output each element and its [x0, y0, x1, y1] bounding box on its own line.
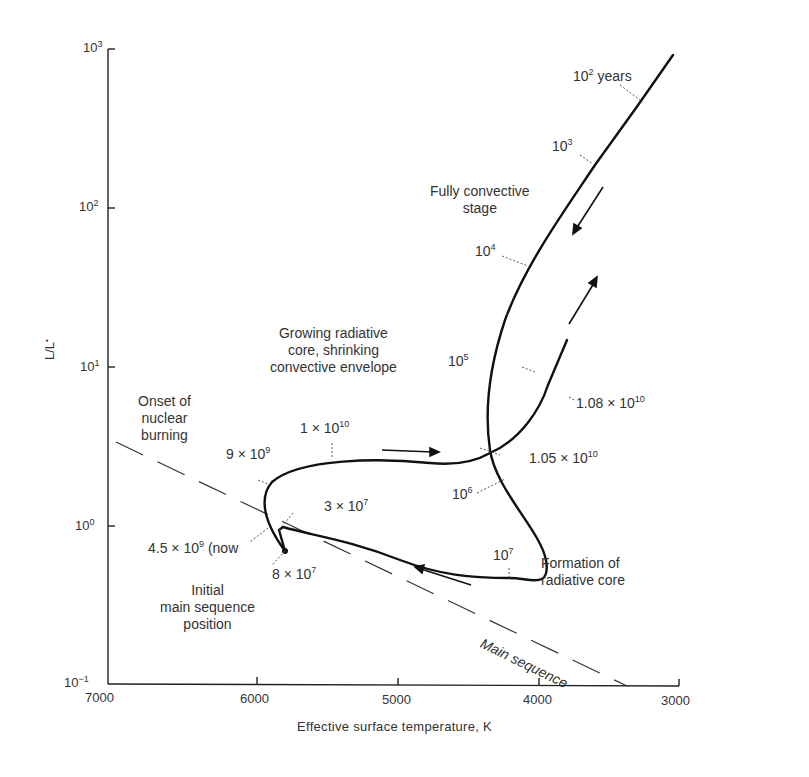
age-1.08e10: 1.08 × 1010	[576, 395, 645, 412]
age-1e7: 107	[493, 547, 514, 564]
age-1e3: 103	[552, 138, 573, 155]
x-axis-title: Effective surface temperature, K	[297, 718, 492, 735]
x-tick-6000: 6000	[240, 691, 269, 706]
y-tick-100: 102	[79, 199, 98, 214]
age-1e5: 105	[448, 353, 469, 370]
arrow-up-icon	[569, 283, 594, 324]
age-1e4: 104	[475, 243, 496, 260]
arrow-left-icon	[421, 569, 471, 585]
label-formation-radiative: Formation ofradiative core	[541, 555, 625, 589]
y-tick-1000: 103	[83, 40, 102, 55]
x-tick-7000: 7000	[85, 690, 114, 705]
x-tick-5000: 5000	[382, 692, 411, 707]
y-tick-1: 100	[75, 518, 94, 533]
y-tick-0.1: 10−1	[64, 675, 89, 690]
y-axis-title: L/L•	[38, 339, 58, 360]
y-tick-10: 101	[80, 359, 99, 374]
age-1e2: 102 years	[573, 68, 632, 85]
arrow-down-icon	[576, 187, 603, 229]
label-growing-radiative: Growing radiativecore, shrinkingconvecti…	[270, 325, 397, 376]
x-axis-line	[108, 684, 679, 686]
age-3e7: 3 × 107	[324, 498, 368, 515]
label-onset-nuclear: Onset ofnuclearburning	[138, 393, 191, 444]
age-1e10: 1 × 1010	[300, 420, 349, 437]
hr-diagram	[0, 0, 809, 777]
age-1e6: 106	[452, 486, 473, 503]
age-9e9: 9 × 109	[226, 446, 270, 463]
age-1.05e10: 1.05 × 1010	[529, 450, 598, 467]
label-fully-convective: Fully convectivestage	[430, 183, 530, 217]
arrow-right-icon	[382, 450, 433, 452]
x-tick-3000: 3000	[661, 693, 690, 708]
age-4.5e9-now: 4.5 × 109 (now	[148, 540, 238, 557]
x-tick-4000: 4000	[523, 692, 552, 707]
label-initial-position: Initialmain sequenceposition	[160, 582, 255, 633]
age-8e7: 8 × 107	[272, 566, 316, 583]
